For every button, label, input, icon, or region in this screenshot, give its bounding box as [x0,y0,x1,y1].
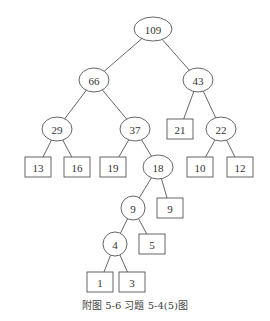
node-value: 29 [52,124,64,136]
node-value: 109 [145,24,162,36]
node-value: 66 [89,75,101,87]
node-value: 3 [129,277,135,289]
node-value: 37 [130,124,142,136]
internal-node-109: 109 [134,17,172,41]
leaf-node-19: 19 [100,157,126,177]
node-value: 18 [153,162,165,174]
node-value: 1 [97,277,103,289]
node-value: 13 [33,162,45,174]
leaf-node-13: 13 [25,157,51,177]
leaf-node-5: 5 [139,234,165,254]
internal-node-66: 66 [79,68,109,92]
huffman-tree-diagram: 109664329372218942113161910129513 [0,0,270,321]
node-value: 21 [175,124,186,136]
internal-node-22: 22 [206,117,236,141]
leaf-node-1: 1 [87,272,113,292]
leaf-node-10: 10 [187,157,213,177]
internal-node-43: 43 [183,68,213,92]
node-value: 10 [195,162,207,174]
node-value: 19 [108,162,120,174]
leaf-node-9: 9 [157,198,183,218]
internal-node-37: 37 [120,117,150,141]
leaf-node-3: 3 [119,272,145,292]
internal-node-18: 18 [143,155,173,179]
leaf-node-21: 21 [167,119,193,139]
node-value: 4 [112,239,118,251]
node-value: 9 [130,203,136,215]
internal-node-4: 4 [103,232,127,256]
node-value: 16 [72,162,84,174]
node-value: 12 [235,162,246,174]
tree-nodes: 109664329372218942113161910129513 [25,17,253,292]
leaf-node-16: 16 [64,157,90,177]
figure-caption: 附图 5-6 习题 5-4(5)图 [0,297,270,312]
node-value: 5 [149,239,155,251]
node-value: 9 [167,203,173,215]
internal-node-9: 9 [121,196,145,220]
node-value: 22 [216,124,227,136]
leaf-node-12: 12 [227,157,253,177]
internal-node-29: 29 [42,117,72,141]
node-value: 43 [193,75,205,87]
